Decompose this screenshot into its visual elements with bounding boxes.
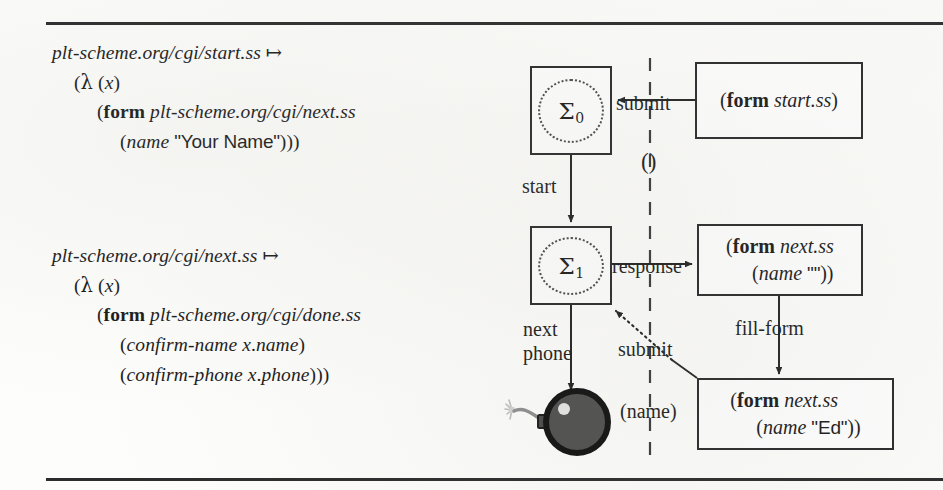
error-bomb-icon [504, 376, 634, 460]
form-node-next-ed-text: (form next.ss(name "Ed")) [730, 387, 860, 441]
state-label-sigma1: Σ1 [558, 253, 583, 279]
edge-label-next-phone-line: phone [523, 342, 572, 366]
form-node-next-empty[interactable]: (form next.ss(name "")) [697, 224, 863, 296]
edge-submit-bottom-connector [672, 360, 697, 378]
form-node-start[interactable]: (form start.ss) [695, 62, 863, 139]
form-node-start-text: (form start.ss) [720, 87, 838, 114]
state-ring: Σ1 [538, 237, 604, 295]
form-node-next-empty-text: (form next.ss(name "")) [726, 233, 834, 287]
edge-label-next-phone: nextphone [523, 318, 572, 365]
edge-label-fill-form: fill-form [735, 317, 804, 341]
edge-label-submit-bottom: submit [618, 338, 672, 362]
edge-label-start: start [522, 175, 556, 199]
edge-label-name-args: (name) [620, 400, 677, 424]
state-node-sigma0[interactable]: Σ0 [530, 66, 612, 155]
edge-label-next-phone-line: next [523, 318, 572, 342]
state-label-sigma0: Σ0 [558, 98, 583, 124]
state-node-sigma1[interactable]: Σ1 [530, 226, 612, 305]
edge-label-empty-args: () [641, 148, 656, 175]
figure-page: plt-scheme.org/cgi/start.ss ↦(λ (x)(form… [0, 0, 943, 490]
edge-label-response: response [612, 255, 682, 279]
state-ring: Σ0 [538, 79, 604, 143]
form-node-next-ed[interactable]: (form next.ss(name "Ed")) [697, 378, 894, 450]
edge-label-submit-top: submit [616, 92, 670, 116]
